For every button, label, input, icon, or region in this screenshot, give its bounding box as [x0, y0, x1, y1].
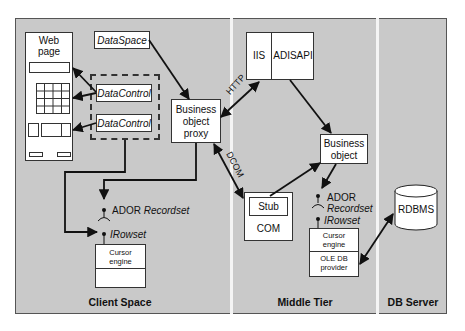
section-label-client: Client Space: [70, 296, 170, 308]
business-object-label-1: Business: [321, 138, 367, 149]
proxy-label-2: object: [172, 116, 220, 127]
web-page-textbox: [29, 62, 70, 73]
proxy-label-3: proxy: [172, 128, 220, 139]
middle-cursor-oledb-box: Cursor engine OLE DB provider: [309, 228, 359, 277]
divider-middle-db: [376, 18, 379, 314]
iis-label: IIS: [247, 50, 271, 61]
stub-box: Stub: [249, 197, 288, 216]
proxy-label-1: Business: [172, 104, 220, 115]
oledb-label-2: provider: [310, 264, 358, 273]
web-page-title-2: page: [26, 46, 72, 57]
com-label: COM: [245, 223, 292, 234]
datacontrol-label-1: DataControl: [97, 88, 150, 99]
web-page-button-1: [29, 152, 43, 157]
datacontrol-box-2: DataControl: [96, 114, 152, 132]
web-page-title-1: Web: [26, 35, 72, 46]
dataspace-box: DataSpace: [94, 31, 150, 49]
stub-label: Stub: [258, 201, 279, 212]
web-page-small-field: [28, 123, 39, 137]
web-page-grid: [36, 83, 70, 114]
rdbms-cylinder: RDBMS: [394, 184, 438, 232]
client-cursor-divider: [96, 268, 145, 269]
middle-cursor-label-2: engine: [310, 241, 358, 250]
iis-adisapi-box: IIS ADISAPI: [246, 32, 314, 80]
client-ador-label: ADOR Recordset: [112, 205, 189, 216]
web-page-field-divider: [61, 123, 62, 137]
client-ador-prefix: ADOR: [112, 205, 141, 216]
section-label-db: DB Server: [379, 296, 447, 308]
client-irowset-label: IRowset: [110, 229, 146, 240]
client-recordset-name: Recordset: [144, 205, 190, 216]
datacontrol-label-2: DataControl: [97, 118, 150, 129]
web-page-button-2: [57, 152, 71, 157]
client-cursor-label-2: engine: [96, 258, 145, 267]
middle-cursor-divider: [310, 251, 358, 252]
middle-ador-prefix: ADOR: [327, 192, 356, 203]
datacontrol-box-1: DataControl: [96, 84, 152, 102]
client-cursor-engine-box: Cursor engine: [95, 244, 146, 288]
business-object-box: Business object: [320, 134, 368, 164]
business-object-proxy-box: Business object proxy: [171, 99, 221, 143]
rdbms-label: RDBMS: [394, 204, 438, 215]
com-box: Stub COM: [244, 192, 293, 241]
section-label-middle: Middle Tier: [255, 296, 355, 308]
middle-irowset-label: IRowset: [324, 215, 360, 226]
middle-recordset-name: Recordset: [327, 203, 373, 214]
web-page-wide-field: [41, 123, 71, 137]
dataspace-label: DataSpace: [97, 35, 146, 46]
business-object-label-2: object: [321, 150, 367, 161]
adisapi-label: ADISAPI: [272, 50, 314, 61]
